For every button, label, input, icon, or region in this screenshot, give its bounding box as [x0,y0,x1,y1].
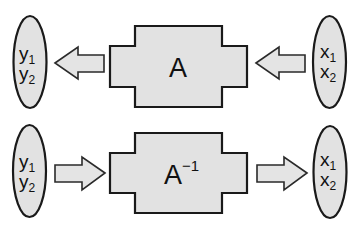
matrix-inverse-diagram: y1 y2 A x1 x2 y1 y2 A−1 x1 x2 [0,0,359,237]
left-arrow-icon [55,47,104,79]
left-arrow-icon [256,47,305,79]
matrix-a-label: A [169,53,187,83]
top-row: y1 y2 A x1 x2 [14,16,347,108]
bottom-row: y1 y2 A−1 x1 x2 [13,125,347,218]
right-arrow-icon [55,157,105,190]
right-arrow-icon [257,157,307,190]
